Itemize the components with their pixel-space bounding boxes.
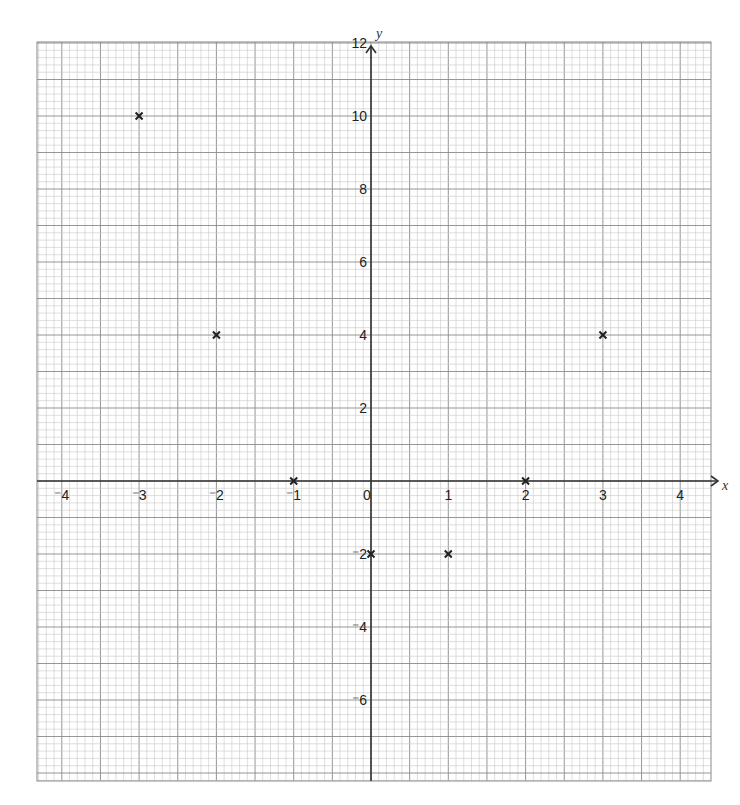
y-tick-label: 12	[351, 35, 367, 51]
x-axis-label: x	[721, 478, 729, 493]
graph-paper-plot: ⁻4⁻3⁻2⁻101234⁻6⁻4⁻224681012 x y	[0, 0, 740, 805]
y-tick-label: 4	[359, 327, 367, 343]
x-tick-label: 0	[363, 487, 371, 503]
x-tick-label: ⁻1	[286, 487, 301, 503]
y-tick-label: ⁻6	[352, 692, 367, 708]
grid-lines	[37, 42, 711, 781]
y-tick-label: 2	[359, 400, 367, 416]
x-tick-label: 4	[676, 487, 684, 503]
x-tick-label: ⁻4	[54, 487, 69, 503]
y-tick-label: ⁻2	[352, 546, 367, 562]
y-tick-label: 10	[351, 108, 367, 124]
y-tick-label: 6	[359, 254, 367, 270]
x-tick-label: ⁻3	[132, 487, 147, 503]
x-tick-label: 3	[599, 487, 607, 503]
y-tick-label: ⁻4	[352, 619, 367, 635]
y-axis-label: y	[374, 26, 383, 41]
y-tick-label: 8	[359, 181, 367, 197]
x-tick-label: 1	[444, 487, 452, 503]
x-tick-label: ⁻2	[209, 487, 224, 503]
x-tick-label: 2	[522, 487, 530, 503]
